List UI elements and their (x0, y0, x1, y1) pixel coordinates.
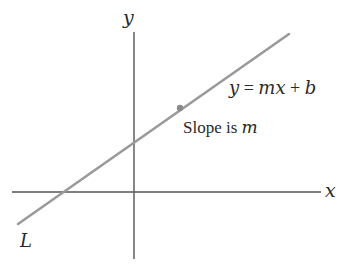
slope-variable: m (242, 117, 258, 137)
equation-label: y = mx + b (228, 77, 316, 98)
line-name-label: L (19, 230, 32, 251)
equation-plus: + (286, 78, 305, 98)
equation-b: b (305, 77, 317, 98)
equation-mx: mx (258, 77, 285, 98)
slope-point (177, 105, 183, 111)
slope-annotation: Slope is m (183, 117, 258, 137)
line-equation-diagram: y x y = mx + b Slope is m L (0, 0, 358, 266)
equation-equals: = (239, 78, 258, 98)
diagram-svg: y x y = mx + b Slope is m L (0, 0, 358, 266)
y-axis-label: y (122, 6, 134, 28)
slope-text: Slope is (183, 118, 242, 137)
x-axis-label: x (325, 179, 336, 201)
